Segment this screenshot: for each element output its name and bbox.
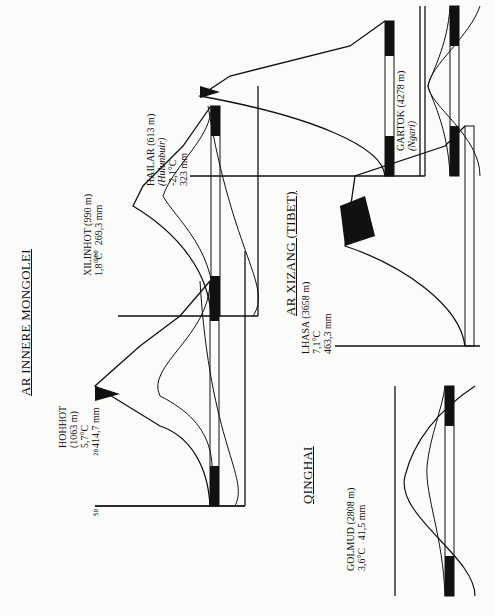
station-temp: -2,1°C (167, 114, 178, 186)
station-label-golmud: GOLMUD (2808 m) 3,6°C 41,5 mm (345, 488, 367, 571)
station-temp: 7,1°C (311, 282, 322, 354)
station-alt: (3658 m) (300, 282, 311, 319)
station-label-gartok: GARTOK (4278 m) (Ngari) (395, 71, 417, 151)
station-name: HAILAR (145, 148, 156, 186)
station-name: GARTOK (395, 110, 406, 151)
station-name: HOHHOT (57, 406, 68, 448)
station-name: GOLMUD (345, 527, 356, 571)
station-sub: (Hulunbuir) (156, 114, 167, 186)
station-alt: (4278 m) (395, 71, 406, 108)
station-alt: (613 m) (145, 114, 156, 146)
station-temp: 1,8°C (93, 253, 104, 276)
station-sub: (Ngari) (406, 71, 417, 151)
station-alt: (990 m) (82, 194, 93, 226)
heading-tibet: AR XIZANG (TIBET) (283, 191, 299, 316)
axis-tick: 50 (92, 509, 99, 516)
climate-chart-gartok (420, 6, 490, 176)
station-precip: 269,3 mm (93, 205, 104, 246)
station-label-hailar: HAILAR (613 m) (Hulunbuir) -2,1°C 323 mm (145, 114, 189, 186)
heading-qinghai: QINGHAI (300, 446, 316, 504)
axis-tick: 20 (92, 449, 99, 456)
station-precip: 463,3 mm (322, 282, 333, 354)
station-precip: 41,5 mm (356, 505, 367, 541)
station-temp: 3,6°C (356, 548, 367, 571)
climate-chart-golmud (395, 386, 485, 596)
heading-inner-mongolia: AR INNERE MONGOLEI (18, 249, 34, 396)
station-alt: (2808 m) (345, 488, 356, 525)
station-name: LHASA (300, 321, 311, 354)
rotated-page: AR INNERE MONGOLEI AR XIZANG (TIBET) QIN… (0, 0, 495, 616)
station-precip: 323 mm (178, 114, 189, 186)
station-label-lhasa: LHASA (3658 m) 7,1°C 463,3 mm (300, 282, 333, 354)
station-label-xilinhot: XILINHOT (990 m) 1,8°C 269,3 mm (82, 194, 104, 276)
station-temp: 5,7°C (79, 406, 90, 448)
station-alt: (1063 m) (68, 406, 79, 448)
station-name: XILINHOT (82, 228, 93, 276)
